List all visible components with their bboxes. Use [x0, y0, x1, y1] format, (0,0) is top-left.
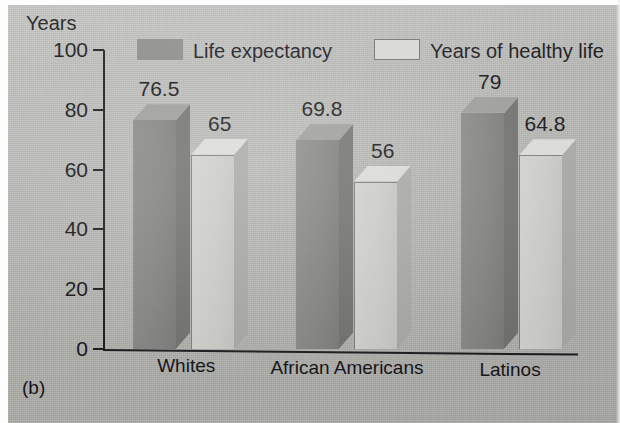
x-axis-label-whites: Whites	[157, 356, 215, 375]
bar-side-face	[397, 166, 411, 349]
bar-front-face	[519, 155, 562, 349]
legend-swatch-life-expectancy	[137, 39, 183, 60]
legend-swatch-years-of-healthy-life	[374, 39, 420, 60]
x-axis-label-african-americans: African Americans	[270, 358, 423, 377]
y-axis-tick-0	[93, 348, 104, 350]
bar-value-label-whites-years-of-healthy-life: 65	[208, 113, 231, 134]
bar-whites-life-expectancy	[133, 120, 176, 349]
y-axis-tick-80	[93, 109, 104, 111]
panel-label: (b)	[22, 378, 45, 397]
bar-african-americans-life-expectancy	[296, 140, 339, 349]
bar-side-face	[234, 139, 248, 349]
y-axis-tick-label-100: 100	[26, 39, 88, 60]
bar-side-face	[562, 139, 576, 349]
y-axis-line	[103, 50, 105, 350]
bar-value-label-latinos-life-expectancy: 79	[478, 71, 501, 92]
y-axis-tick-label-20: 20	[26, 278, 88, 299]
page-edge-top	[0, 0, 620, 5]
bar-front-face	[133, 120, 176, 349]
bar-side-face	[176, 104, 190, 349]
bar-side-face	[339, 124, 353, 349]
bar-whites-years-of-healthy-life	[191, 155, 234, 349]
bar-value-label-whites-life-expectancy: 76.5	[139, 78, 180, 99]
y-axis-tick-100	[93, 49, 104, 51]
bar-african-americans-years-of-healthy-life	[354, 182, 397, 349]
page-edge-right	[616, 0, 620, 423]
bar-value-label-african-americans-life-expectancy: 69.8	[302, 98, 343, 119]
y-axis-tick-label-60: 60	[26, 159, 88, 180]
page-edge-left	[0, 0, 8, 423]
bar-front-face	[354, 182, 397, 349]
bar-value-label-latinos-years-of-healthy-life: 64.8	[525, 113, 566, 134]
y-axis-unit-label: Years	[26, 13, 76, 33]
bar-value-label-african-americans-years-of-healthy-life: 56	[371, 140, 394, 161]
y-axis-tick-label-0: 0	[26, 338, 88, 359]
y-axis-tick-40	[93, 228, 104, 230]
bar-front-face	[191, 155, 234, 349]
legend-label-life-expectancy: Life expectancy	[193, 41, 332, 61]
y-axis-tick-label-80: 80	[26, 99, 88, 120]
bar-front-face	[461, 113, 504, 349]
y-axis-tick-60	[93, 169, 104, 171]
legend-label-years-of-healthy-life: Years of healthy life	[430, 41, 604, 61]
x-axis-label-latinos: Latinos	[479, 360, 540, 379]
y-axis-tick-label-40: 40	[26, 218, 88, 239]
y-axis-tick-20	[93, 288, 104, 290]
figure-panel: Years 100806040200 76.56569.8567964.8 Wh…	[0, 0, 620, 423]
bar-latinos-life-expectancy	[461, 113, 504, 349]
bar-latinos-years-of-healthy-life	[519, 155, 562, 349]
bar-front-face	[296, 140, 339, 349]
bar-side-face	[504, 97, 518, 349]
